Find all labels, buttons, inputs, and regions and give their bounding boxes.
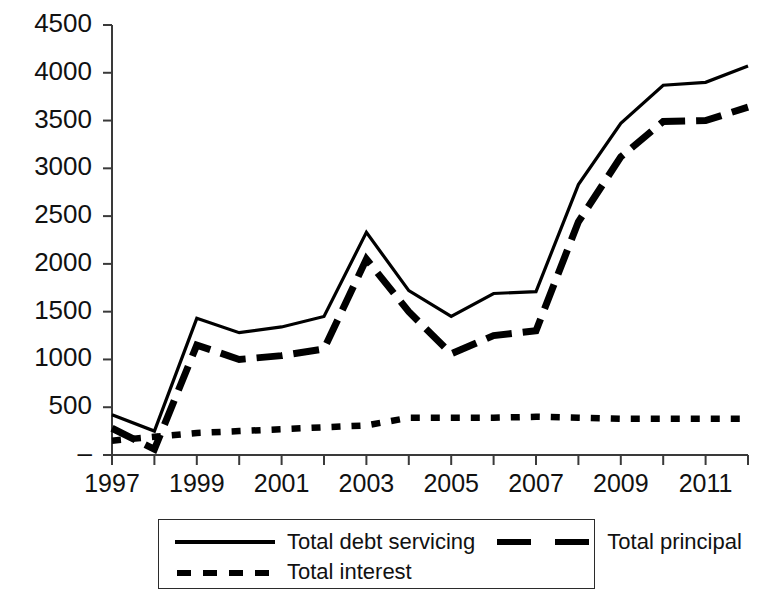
series-line-total-interest: [112, 417, 748, 441]
y-axis-tick-label: 1500: [12, 295, 92, 326]
legend-item-total-debt-servicing: Total debt servicing: [159, 529, 475, 555]
y-axis-tick-label: 4000: [12, 56, 92, 87]
x-axis-tick-label: 2007: [496, 469, 576, 498]
x-axis-tick-label: 2011: [666, 469, 746, 498]
x-axis-tick-label: 1999: [157, 469, 237, 498]
x-axis-tick-label: 2009: [581, 469, 661, 498]
chart-legend: Total debt servicing Total principal Tot…: [158, 519, 595, 589]
legend-swatch-solid-line-icon: [175, 529, 275, 555]
y-axis-tick-label: 2000: [12, 247, 92, 278]
legend-swatch-short-dash-line-icon: [175, 559, 275, 585]
chart-figure: –50010001500200025003000350040004500 199…: [0, 0, 757, 615]
x-axis-tick-label: 2003: [326, 469, 406, 498]
x-axis-tick-label: 2001: [242, 469, 322, 498]
y-axis-tick-label: 4500: [12, 8, 92, 39]
y-axis-tick-label: 3000: [12, 151, 92, 182]
y-axis-tick-label: –: [12, 438, 92, 469]
legend-label-total-principal: Total principal: [607, 529, 742, 555]
chart-axes: [103, 25, 748, 465]
y-axis-ticks: [103, 25, 112, 455]
chart-series-layer: [112, 66, 748, 449]
x-axis-tick-label: 2005: [411, 469, 491, 498]
y-axis-tick-label: 1000: [12, 342, 92, 373]
y-axis-tick-label: 2500: [12, 199, 92, 230]
x-axis-tick-label: 1997: [72, 469, 152, 498]
legend-row-1: Total debt servicing Total principal: [159, 527, 594, 557]
series-line-total-principal: [112, 107, 748, 449]
legend-item-total-interest: Total interest: [159, 559, 412, 585]
legend-row-2: Total interest: [159, 557, 594, 587]
legend-swatch-long-dash-line-icon: [495, 529, 595, 555]
legend-label-total-debt-servicing: Total debt servicing: [287, 529, 475, 555]
y-axis-tick-label: 500: [12, 390, 92, 421]
x-axis-ticks: [112, 455, 748, 465]
line-chart-plot: [0, 0, 757, 500]
legend-label-total-interest: Total interest: [287, 559, 412, 585]
legend-item-total-principal: Total principal: [475, 529, 742, 555]
y-axis-tick-label: 3500: [12, 104, 92, 135]
series-line-total-debt-servicing: [112, 66, 748, 431]
